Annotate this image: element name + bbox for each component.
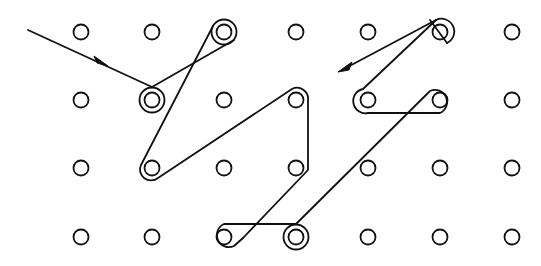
dot-grid-path-diagram: [0, 0, 541, 266]
exit-line: [342, 20, 447, 70]
segment-2-0-to-1-2: [140, 26, 308, 238]
grid-dot-3-0: [289, 25, 304, 40]
grid-dot-1-2: [145, 161, 160, 176]
grid-dot-3-3: [289, 230, 304, 245]
exit-arrow-icon: [338, 62, 352, 72]
ring-dot-2-0: [212, 20, 237, 45]
grid-dot-2-0: [217, 25, 232, 40]
grid-dot-6-2: [505, 161, 520, 176]
grid-dot-1-0: [145, 25, 160, 40]
grid-dot-0-2: [74, 161, 89, 176]
grid-dot-6-3: [505, 230, 520, 245]
grid-dot-0-3: [74, 230, 89, 245]
grid-dot-0-1: [74, 93, 89, 108]
entry-line: [28, 30, 152, 87]
grid-dots: [74, 25, 520, 245]
entry-arrow-icon: [94, 56, 108, 66]
path-strokes: [28, 19, 454, 250]
diagram-svg: [0, 0, 541, 266]
ring-dot-1-1: [140, 88, 165, 113]
grid-dot-3-2: [289, 161, 304, 176]
grid-dot-2-1: [217, 93, 232, 108]
grid-dot-0-0: [74, 25, 89, 40]
grid-dot-4-3: [361, 230, 376, 245]
grid-dot-5-2: [433, 161, 448, 176]
grid-dot-4-0: [361, 25, 376, 40]
segment-3-3-to-5-1: [296, 19, 454, 224]
grid-dot-5-3: [433, 230, 448, 245]
grid-dot-6-1: [505, 93, 520, 108]
grid-dot-4-1: [361, 93, 376, 108]
ring-dot-3-3: [284, 225, 309, 250]
grid-dot-6-0: [505, 25, 520, 40]
grid-dot-2-2: [217, 161, 232, 176]
grid-dot-1-3: [145, 230, 160, 245]
grid-dot-4-2: [361, 161, 376, 176]
grid-dot-3-1: [289, 93, 304, 108]
grid-dot-1-1: [145, 93, 160, 108]
